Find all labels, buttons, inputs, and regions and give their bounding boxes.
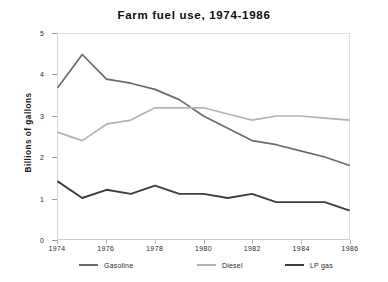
- chart-legend: GasolineDieselLP gas: [57, 258, 350, 272]
- series-lines: [58, 34, 349, 239]
- x-tick-mark: [57, 240, 58, 244]
- series-line-lp-gas: [58, 182, 349, 211]
- legend-swatch-icon: [285, 264, 304, 266]
- legend-label: LP gas: [310, 262, 333, 269]
- y-tick-label: 4: [18, 71, 44, 78]
- x-tick-mark: [204, 240, 205, 244]
- y-tick-label: 1: [18, 195, 44, 202]
- x-tick-label: 1978: [132, 245, 178, 252]
- x-tick-mark: [106, 240, 107, 244]
- y-axis-title: Billions of gallons: [24, 58, 33, 208]
- y-tick-label: 0: [18, 237, 44, 244]
- legend-swatch-icon: [197, 264, 216, 266]
- y-tick-label: 2: [18, 154, 44, 161]
- legend-label: Gasoline: [104, 262, 133, 269]
- legend-swatch-icon: [79, 264, 98, 266]
- y-tick-label: 5: [18, 30, 44, 37]
- x-tick-mark: [301, 240, 302, 244]
- legend-label: Diesel: [222, 262, 243, 269]
- y-tick-label: 3: [18, 112, 44, 119]
- x-tick-mark: [350, 240, 351, 244]
- x-tick-label: 1982: [229, 245, 275, 252]
- series-line-gasoline: [58, 55, 349, 166]
- chart-title: Farm fuel use, 1974-1986: [0, 9, 388, 21]
- legend-item-gasoline[interactable]: Gasoline: [79, 258, 133, 272]
- x-tick-label: 1974: [34, 245, 80, 252]
- x-tick-label: 1986: [327, 245, 373, 252]
- x-tick-label: 1976: [83, 245, 129, 252]
- series-line-diesel: [58, 108, 349, 141]
- x-tick-label: 1984: [278, 245, 324, 252]
- legend-item-lp-gas[interactable]: LP gas: [285, 258, 333, 272]
- plot-area: [57, 33, 350, 240]
- chart-figure: Farm fuel use, 1974-1986 Billions of gal…: [0, 0, 388, 282]
- x-tick-label: 1980: [181, 245, 227, 252]
- x-tick-mark: [155, 240, 156, 244]
- legend-item-diesel[interactable]: Diesel: [197, 258, 243, 272]
- x-tick-mark: [252, 240, 253, 244]
